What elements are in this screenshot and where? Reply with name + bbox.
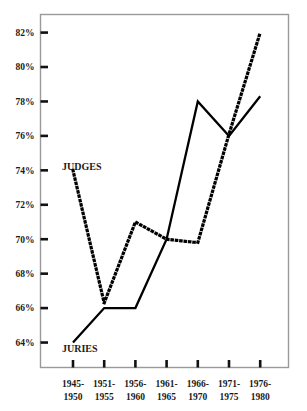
x-tick-label: 1980 [251,392,270,402]
x-tick-label: 1970 [188,392,207,402]
y-tick-label: 68% [16,269,35,279]
x-tick-label: 1966- [187,379,209,389]
x-tick-label: 1976- [249,379,271,389]
x-tick-label: 1960 [126,392,145,402]
y-tick-label: 72% [16,200,35,210]
y-tick-label: 78% [16,97,35,107]
y-tick-label: 70% [16,235,35,245]
x-tick-label: 1956- [124,379,146,389]
y-tick-label: 64% [16,338,35,348]
y-tick-label: 82% [16,28,35,38]
y-tick-label: 76% [16,131,35,141]
series-label-judges: JUDGES [62,161,102,172]
line-chart: 64%66%68%70%72%74%76%78%80%82% 1945-1950… [0,0,307,411]
x-tick-label: 1951- [93,379,115,389]
y-tick-label: 74% [16,166,35,176]
x-tick-label: 1965 [157,392,176,402]
x-tick-label: 1975 [220,392,239,402]
x-tick-label: 1950 [64,392,83,402]
x-tick-label: 1945- [62,379,84,389]
y-tick-label: 66% [16,303,35,313]
x-tick-label: 1971- [218,379,240,389]
y-tick-label: 80% [16,62,35,72]
series-label-juries: JURIES [62,343,98,354]
x-tick-label: 1955 [95,392,114,402]
x-tick-label: 1961- [156,379,178,389]
chart-container: 64%66%68%70%72%74%76%78%80%82% 1945-1950… [0,0,307,411]
